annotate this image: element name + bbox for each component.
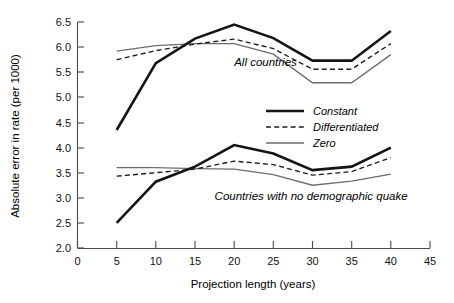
annotation-no-quake: Countries with no demographic quake xyxy=(215,190,408,202)
x-tick-label: 45 xyxy=(424,255,436,267)
y-axis-title: Absolute error in rate (per 1000) xyxy=(9,54,21,218)
legend-label-constant: Constant xyxy=(313,105,358,117)
x-axis-ticks xyxy=(78,241,431,248)
y-tick-label: 4.0 xyxy=(56,142,71,154)
y-tick-label: 6.5 xyxy=(56,16,71,28)
y-tick-label: 2.5 xyxy=(56,217,71,229)
x-tick-label: 10 xyxy=(150,255,162,267)
series-line-constant-noquake xyxy=(117,145,391,223)
x-tick-label: 30 xyxy=(306,255,318,267)
x-tick-label: 15 xyxy=(189,255,201,267)
y-tick-label: 4.5 xyxy=(56,117,71,129)
x-tick-label: 0 xyxy=(74,255,80,267)
y-tick-label: 6.0 xyxy=(56,41,71,53)
x-tick-label: 5 xyxy=(114,255,120,267)
chart-figure: Absolute error in rate (per 1000) Projec… xyxy=(0,0,454,303)
y-axis-ticks xyxy=(78,22,85,248)
legend-label-zero: Zero xyxy=(312,137,336,149)
x-axis-title: Projection length (years) xyxy=(191,278,316,290)
y-tick-label: 3.0 xyxy=(56,192,71,204)
y-tick-label: 5.0 xyxy=(56,91,71,103)
annotation-all-countries: All countries xyxy=(233,56,297,68)
legend-label-differentiated: Differentiated xyxy=(313,121,379,133)
line-chart: Absolute error in rate (per 1000) Projec… xyxy=(0,0,454,303)
y-axis-tick-labels: 6.5 6.0 5.5 5.0 4.5 4.0 3.5 3.0 2.5 2.0 xyxy=(56,16,71,254)
chart-legend: Constant Differentiated Zero xyxy=(266,105,379,149)
series-line-zero-noquake xyxy=(117,168,391,186)
x-tick-label: 35 xyxy=(346,255,358,267)
y-tick-label: 2.0 xyxy=(56,242,71,254)
x-tick-label: 25 xyxy=(267,255,279,267)
y-tick-label: 5.5 xyxy=(56,66,71,78)
x-axis-tick-labels: 0 5 10 15 20 25 30 35 40 45 xyxy=(74,255,436,267)
x-tick-label: 20 xyxy=(228,255,240,267)
y-tick-label: 3.5 xyxy=(56,167,71,179)
x-tick-label: 40 xyxy=(385,255,397,267)
